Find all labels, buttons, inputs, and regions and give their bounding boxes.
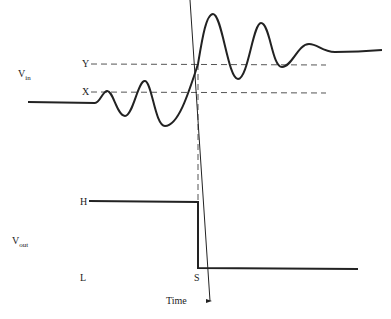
threshold-x-label: X [82,87,89,97]
vout-waveform [89,201,358,269]
output-high-label: H [80,197,87,207]
vin-waveform [28,14,382,126]
output-low-label: L [80,273,86,283]
vout-label: Vout [12,236,28,249]
threshold-y-dashed-line [91,64,326,65]
vin-label: Vin [18,69,31,82]
time-axis-label: Time [166,296,187,306]
switch-point-label: S [194,273,200,283]
time-arrow [190,0,210,301]
arrow-head-icon [206,299,212,303]
threshold-y-label: Y [82,59,89,69]
threshold-x-dashed-line [91,92,326,93]
